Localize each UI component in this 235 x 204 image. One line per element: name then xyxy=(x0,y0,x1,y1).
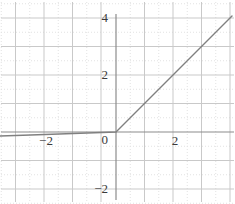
y-tick-label-minus-2: −2 xyxy=(92,182,108,195)
major-gridlines-vertical xyxy=(16,2,231,202)
plot-figure: 4 2 0 −2 −2 2 xyxy=(0,0,235,204)
y-tick-label-4: 4 xyxy=(92,11,108,24)
major-gridlines-horizontal xyxy=(1,18,234,189)
coordinate-plane xyxy=(0,0,235,204)
origin-label-0: 0 xyxy=(92,133,108,146)
minor-gridlines-vertical xyxy=(1,2,216,202)
x-tick-label-minus-2: −2 xyxy=(36,134,56,147)
y-tick-label-2: 2 xyxy=(92,68,108,81)
x-tick-label-2: 2 xyxy=(165,134,185,147)
